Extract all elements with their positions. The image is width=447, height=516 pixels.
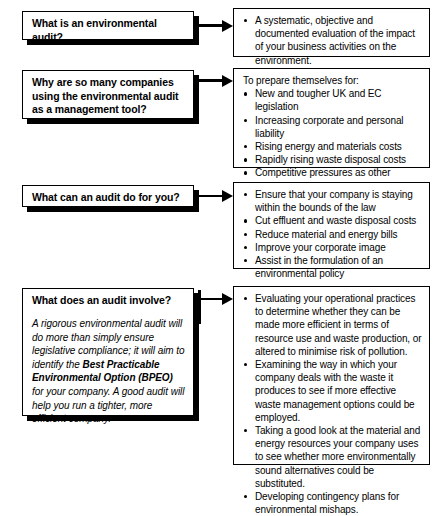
list-item: Reduce material and energy bills <box>242 228 423 241</box>
list-item: Examining the way in which your company … <box>242 358 423 424</box>
list-item: Improve your corporate image <box>242 241 423 254</box>
connector-arrow-3 <box>196 185 233 207</box>
list-item: Ensure that your company is staying with… <box>242 188 423 214</box>
answer-list-4: Evaluating your operational practices to… <box>242 292 423 516</box>
list-item: Evaluating your operational practices to… <box>242 292 423 358</box>
question-title-4: What does an audit involve? <box>32 294 185 306</box>
list-item: Rising energy and materials costs <box>242 140 423 153</box>
answer-box-1: A systematic, objective and documented e… <box>233 8 430 57</box>
answer-box-3: Ensure that your company is staying with… <box>233 182 430 269</box>
list-item: New and tougher UK and EC legislation <box>242 87 423 113</box>
question-box-1: What is an environmental audit? <box>22 11 194 40</box>
list-item: Cut effluent and waste disposal costs <box>242 214 423 227</box>
connector-arrow-2 <box>196 70 233 91</box>
question-box-2: Why are so many companies using the envi… <box>22 70 194 119</box>
question-title-1: What is an environmental audit? <box>32 17 185 44</box>
question-body-4: A rigorous environmental audit will do m… <box>32 317 185 426</box>
answer-box-2: To prepare themselves for: New and tough… <box>233 68 430 168</box>
connector-arrow-1 <box>196 11 233 40</box>
answer-lead-2: To prepare themselves for: <box>243 74 423 87</box>
connector-arrow-4 <box>198 288 233 310</box>
question-title-2: Why are so many companies using the envi… <box>32 76 185 117</box>
question-body-suffix-4: for your company. A good audit will help… <box>32 386 184 424</box>
question-box-4: What does an audit involve? A rigorous e… <box>22 288 194 416</box>
list-item: Taking a good look at the material and e… <box>242 424 423 490</box>
answer-list-3: Ensure that your company is staying with… <box>242 188 423 280</box>
question-title-3: What can an audit do for you? <box>32 191 185 203</box>
list-item: Developing contingency plans for environ… <box>242 490 423 516</box>
list-item: Assist in the formulation of an environm… <box>242 254 423 280</box>
list-item: A systematic, objective and documented e… <box>242 14 423 67</box>
question-box-3: What can an audit do for you? <box>22 185 194 207</box>
answer-list-1: A systematic, objective and documented e… <box>242 14 423 67</box>
list-item: Rapidly rising waste disposal costs <box>242 153 423 166</box>
list-item: Increasing corporate and personal liabil… <box>242 114 423 140</box>
answer-box-4: Evaluating your operational practices to… <box>233 286 430 465</box>
